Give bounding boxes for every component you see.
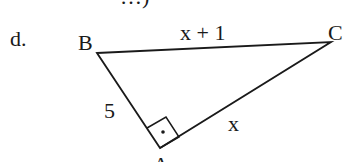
top-text-fragment: …) (120, 0, 149, 9)
side-label-ac: x (228, 111, 239, 136)
vertex-label-c: C (328, 20, 343, 45)
vertex-label-a: A (153, 152, 169, 162)
triangle-diagram: …) d. B C A x + 1 5 x (0, 0, 343, 162)
side-label-bc: x + 1 (180, 20, 225, 45)
problem-label: d. (10, 26, 27, 51)
right-angle-dot (161, 130, 165, 134)
triangle (97, 42, 331, 148)
side-label-ab: 5 (104, 98, 115, 123)
vertex-label-b: B (78, 30, 93, 55)
